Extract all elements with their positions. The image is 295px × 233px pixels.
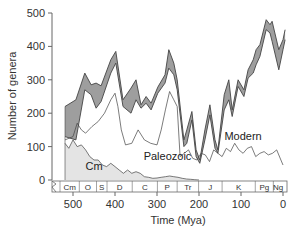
period-label-o: O [85, 183, 91, 192]
x-tick-label: 0 [280, 198, 286, 210]
period-label-cm: Cm [63, 183, 76, 192]
y-axis: 0100200300400500 [27, 7, 52, 186]
x-tick-label: 300 [148, 198, 166, 210]
period-label-c: C [142, 183, 148, 192]
geologic-period-bar: CmOSDCPTrJKPgNg [52, 181, 287, 192]
y-axis-title: Number of genera [6, 51, 18, 141]
period-label-d: D [117, 183, 123, 192]
period-label-s: S [99, 183, 104, 192]
period-label-j: J [208, 183, 212, 192]
period-label-ng: Ng [273, 183, 283, 192]
x-tick-label: 500 [64, 198, 82, 210]
period-label-pg: Pg [259, 183, 269, 192]
period-label-k: K [236, 183, 242, 192]
y-tick-label: 500 [27, 7, 45, 19]
x-tick-label: 200 [190, 198, 208, 210]
x-tick-label: 100 [232, 198, 250, 210]
period-label-tr: Tr [184, 183, 192, 192]
y-tick-label: 400 [27, 40, 45, 52]
series-label-paleozoic: Paleozoic [144, 150, 192, 162]
y-tick-label: 200 [27, 107, 45, 119]
genera-diversity-chart: 0100200300400500 CmOSDCPTrJKPgNg 5004003… [0, 0, 295, 233]
y-tick-label: 300 [27, 74, 45, 86]
period-label-p: P [165, 183, 170, 192]
x-axis-title: Time (Mya) [150, 214, 205, 226]
series-label-cm: Cm [85, 160, 102, 172]
series-label-modern: Modern [224, 130, 261, 142]
y-tick-label: 100 [27, 141, 45, 153]
x-tick-label: 400 [106, 198, 124, 210]
y-tick-label: 0 [39, 174, 45, 186]
x-axis: 5004003002001000 [64, 192, 286, 210]
